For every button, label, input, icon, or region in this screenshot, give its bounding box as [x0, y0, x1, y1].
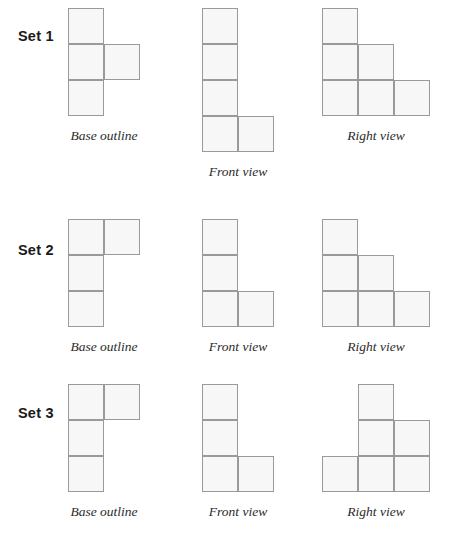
- caption-set1-right: Right view: [306, 128, 446, 144]
- grid-cell: [238, 116, 274, 152]
- grid-cell: [104, 384, 140, 420]
- grid-wrap-set3-right: [306, 384, 446, 492]
- grid-cell: [202, 384, 238, 420]
- grid-set3-front: [202, 384, 274, 492]
- grid-wrap-set2-front: [176, 219, 300, 327]
- grid-set3-base: [68, 384, 140, 492]
- grid-wrap-set3-front: [176, 384, 300, 492]
- grid-set3-right: [322, 384, 430, 492]
- grid-cell: [358, 456, 394, 492]
- grid-cell: [202, 291, 238, 327]
- grid-cell: [68, 8, 104, 44]
- grid-wrap-set2-right: [306, 219, 446, 327]
- grid-cell: [238, 291, 274, 327]
- figure-set3-right-view: Right view: [306, 384, 446, 520]
- caption-set3-right: Right view: [306, 504, 446, 520]
- figure-set1-base-outline: Base outline: [44, 8, 164, 144]
- grid-wrap-set1-right: [306, 8, 446, 116]
- grid-wrap-set1-base: [44, 8, 164, 116]
- grid-cell: [202, 80, 238, 116]
- figure-set2-right-view: Right view: [306, 219, 446, 355]
- grid-cell: [68, 456, 104, 492]
- grid-cell: [104, 219, 140, 255]
- grid-set2-right: [322, 219, 430, 327]
- grid-cell: [202, 44, 238, 80]
- grid-cell: [358, 291, 394, 327]
- grid-cell: [322, 255, 358, 291]
- grid-set2-base: [68, 219, 140, 327]
- grid-cell: [238, 456, 274, 492]
- grid-cell: [202, 116, 238, 152]
- grid-cell: [202, 456, 238, 492]
- grid-cell: [394, 80, 430, 116]
- grid-set2-front: [202, 219, 274, 327]
- caption-set1-base: Base outline: [44, 128, 164, 144]
- figure-set2-base-outline: Base outline: [44, 219, 164, 355]
- grid-cell: [68, 255, 104, 291]
- caption-set2-front: Front view: [176, 339, 300, 355]
- grid-cell: [358, 420, 394, 456]
- grid-cell: [68, 44, 104, 80]
- grid-cell: [322, 80, 358, 116]
- grid-cell: [322, 44, 358, 80]
- grid-cell: [358, 80, 394, 116]
- grid-cell: [358, 44, 394, 80]
- grid-set1-base: [68, 8, 140, 116]
- grid-cell: [202, 255, 238, 291]
- grid-cell: [358, 255, 394, 291]
- grid-cell: [394, 420, 430, 456]
- figure-set2-front-view: Front view: [176, 219, 300, 355]
- caption-set2-right: Right view: [306, 339, 446, 355]
- caption-set1-front: Front view: [176, 164, 300, 180]
- caption-set2-base: Base outline: [44, 339, 164, 355]
- grid-cell: [322, 219, 358, 255]
- grid-cell: [322, 8, 358, 44]
- grid-cell: [394, 291, 430, 327]
- caption-set3-base: Base outline: [44, 504, 164, 520]
- grid-cell: [358, 384, 394, 420]
- grid-wrap-set1-front: [176, 8, 300, 152]
- grid-cell: [202, 8, 238, 44]
- grid-wrap-set2-base: [44, 219, 164, 327]
- grid-cell: [104, 44, 140, 80]
- grid-wrap-set3-base: [44, 384, 164, 492]
- grid-cell: [202, 219, 238, 255]
- grid-cell: [322, 291, 358, 327]
- caption-set3-front: Front view: [176, 504, 300, 520]
- figure-set3-front-view: Front view: [176, 384, 300, 520]
- grid-set1-front: [202, 8, 274, 152]
- grid-cell: [202, 420, 238, 456]
- grid-cell: [68, 420, 104, 456]
- figure-set1-front-view: Front view: [176, 8, 300, 180]
- figure-set3-base-outline: Base outline: [44, 384, 164, 520]
- figure-set1-right-view: Right view: [306, 8, 446, 144]
- set-row-1: Set 1 Base outline Front view Right view: [0, 0, 458, 205]
- worksheet-page: Set 1 Base outline Front view Right view…: [0, 0, 458, 556]
- grid-cell: [322, 456, 358, 492]
- grid-cell: [68, 80, 104, 116]
- set-row-3: Set 3 Base outline Front view Right view: [0, 380, 458, 556]
- grid-cell: [68, 219, 104, 255]
- grid-cell: [394, 456, 430, 492]
- grid-cell: [68, 384, 104, 420]
- grid-cell: [68, 291, 104, 327]
- set-row-2: Set 2 Base outline Front view Right view: [0, 215, 458, 365]
- grid-set1-right: [322, 8, 430, 116]
